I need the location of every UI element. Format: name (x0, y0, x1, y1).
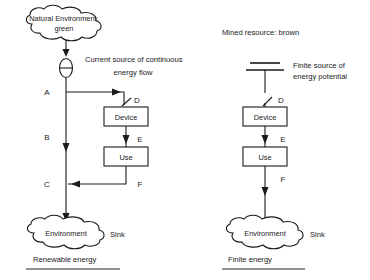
source-cloud-label-line2: green (55, 24, 74, 33)
current-source-symbol (60, 59, 73, 78)
sink-note-left: Sink (110, 230, 125, 239)
flow-label-d-left: D (134, 96, 140, 105)
sink-note-right: Sink (310, 230, 325, 239)
diagram-canvas: Natural Environment: green Current sourc… (0, 0, 370, 280)
flow-label-d-right: D (278, 96, 284, 105)
flow-label-e-left: E (137, 135, 142, 144)
energy-flow-diagram: Natural Environment: green Current sourc… (0, 0, 370, 280)
arrowhead-b-left (63, 143, 70, 152)
source-description-line1-right: Finite source of (293, 61, 346, 70)
mined-resource-note: Mined resource: brown (222, 28, 299, 37)
flow-label-a-left: A (44, 88, 50, 97)
source-cloud-renewable (26, 5, 101, 41)
sink-cloud-label-right: Environment (244, 229, 286, 238)
return-f-left (68, 166, 126, 184)
use-label-left: Use (119, 153, 132, 162)
source-description-line2-left: energy flow (114, 68, 153, 77)
finite-source-symbol (246, 63, 284, 70)
caption-right: Finite energy (228, 255, 272, 264)
switch-d-right (263, 97, 272, 106)
caption-left: Renewable energy (33, 255, 97, 264)
source-cloud-label-line1: Natural Environment: (29, 14, 98, 23)
flow-label-f-left: F (138, 180, 143, 189)
arrowhead-e-right (262, 135, 269, 144)
sink-cloud-label-left: Environment (45, 229, 87, 238)
use-label-right: Use (258, 153, 271, 162)
arrowhead-e-left (123, 135, 130, 144)
flow-label-e-right: E (280, 135, 285, 144)
arrowhead-f-left (71, 181, 80, 188)
source-description-line2-right: energy potential (293, 72, 347, 81)
device-label-right: Device (254, 113, 277, 122)
flow-label-b-left: B (44, 133, 49, 142)
arrowhead-cloud-to-source (63, 49, 70, 57)
device-label-left: Device (115, 113, 138, 122)
flow-label-c-left: C (44, 180, 50, 189)
arrowhead-a-left (112, 89, 121, 96)
source-description-line1-left: Current source of continuous (85, 55, 183, 64)
flow-label-f-right: F (281, 175, 286, 184)
arrowhead-f-right (262, 187, 269, 196)
switch-d-left (122, 98, 131, 106)
